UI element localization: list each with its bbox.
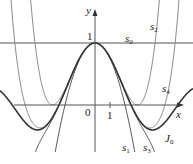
origin-label: 0 (85, 107, 91, 118)
label-s4: s4 (162, 83, 170, 96)
x-axis-arrow-icon (177, 103, 184, 108)
y-tick-label-1: 1 (87, 31, 93, 42)
label-J0: J0 (165, 133, 173, 146)
label-s3: s3 (143, 142, 151, 155)
y-axis-label: y (86, 5, 91, 16)
label-s1: s1 (122, 142, 130, 155)
label-s0: s0 (125, 33, 133, 46)
curve-s4 (0, 0, 193, 128)
y-axis-arrow-icon (93, 9, 98, 16)
x-axis-label: x (176, 109, 181, 120)
x-tick-label-1: 1 (107, 110, 113, 121)
label-s2: s2 (150, 21, 158, 34)
